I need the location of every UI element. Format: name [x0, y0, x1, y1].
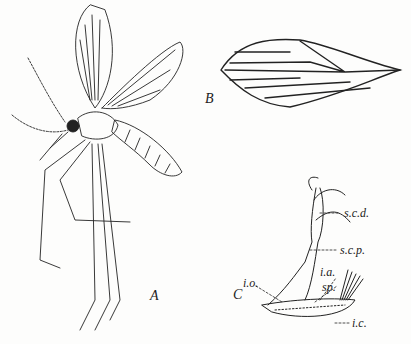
panel-label-a: A	[150, 288, 159, 304]
panel-label-c: C	[233, 287, 242, 303]
fly-drawing	[12, 5, 183, 330]
annotation-scp: s.c.p.	[340, 243, 365, 258]
annotation-ic: i.c.	[352, 316, 367, 331]
annotation-scd: s.c.d.	[344, 206, 369, 221]
annotation-sp: sp.	[322, 280, 336, 295]
annotation-io: i.o.	[243, 276, 258, 291]
figure: B A C s.c.d. s.c.p. i.o. i.a. sp. i.c.	[0, 0, 411, 344]
annotation-ia: i.a.	[320, 265, 335, 280]
panel-label-b: B	[205, 91, 214, 107]
leader-lines	[256, 213, 350, 323]
illustration	[0, 0, 411, 344]
wing-drawing	[221, 39, 400, 107]
